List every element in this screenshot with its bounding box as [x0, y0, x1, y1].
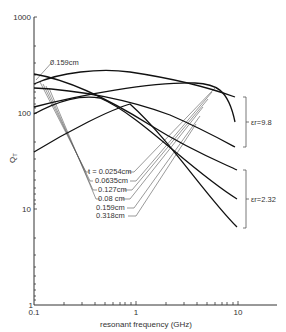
curve-4 [34, 88, 235, 147]
label-eps-low: εr=2.32 [251, 195, 276, 204]
bracket-high [243, 97, 249, 147]
label-t2: 0.0635cm [95, 176, 128, 185]
svg-text:QT: QT [8, 153, 18, 163]
curves [34, 71, 237, 228]
x-ticks [64, 301, 238, 305]
label-t3: 0.127cm [98, 185, 127, 194]
label-t4: 0.08 cm [98, 194, 125, 203]
curve-5 [34, 97, 237, 199]
x-tick-0.1: 0.1 [28, 308, 40, 317]
label-t6: 0.318cm [96, 211, 125, 220]
x-tick-10: 10 [234, 308, 243, 317]
curve-6 [34, 104, 237, 227]
bracket-low [243, 170, 249, 228]
x-tick-1: 1 [134, 308, 139, 317]
y-tick-1000: 1000 [13, 13, 31, 22]
qt-vs-frequency-chart: 1000 100 10 1 0.1 1 10 resonant frequenc… [0, 0, 286, 332]
y-tick-100: 100 [18, 109, 32, 118]
y-tick-10: 10 [22, 205, 31, 214]
x-axis-title: resonant frequency (GHz) [100, 320, 192, 329]
label-eps-high: εr=9.8 [251, 118, 272, 127]
label-t1: t = 0.0254cm [88, 167, 132, 176]
y-axis-title: QT [8, 153, 18, 163]
label-top-0.159cm: 0.159cm [50, 58, 79, 67]
